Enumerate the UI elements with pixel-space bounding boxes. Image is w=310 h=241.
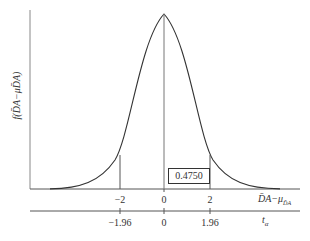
x-axis-label-2: tα — [262, 214, 268, 228]
tick-label-neg196: −1.96 — [108, 217, 131, 228]
tick-label-neg2: −2 — [115, 194, 126, 205]
area-annotation: 0.4750 — [168, 168, 210, 184]
x-axis-label: D̄A−μD̄A — [258, 193, 291, 206]
bell-curve — [50, 14, 280, 189]
x-axis-label-main: D̄A−μ — [258, 193, 283, 204]
tick-label-pos2: 2 — [208, 194, 213, 205]
tick-label-0: 0 — [162, 194, 167, 205]
x-axis-label-sub: D̄A — [283, 200, 291, 206]
y-axis-label: f(D̄A−μD̄A) — [11, 56, 22, 136]
tick-label-0b: 0 — [162, 217, 167, 228]
t-label-sub: α — [265, 220, 269, 228]
tick-label-196: 1.96 — [201, 217, 219, 228]
